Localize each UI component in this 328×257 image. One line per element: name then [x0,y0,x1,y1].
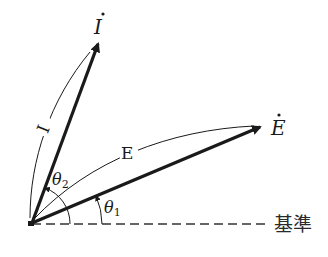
phasor-diagram: I E I E θ2 θ1 基準 [0,0,328,257]
e-vector-arrow [32,127,260,223]
i-vector-label: I [93,15,103,39]
i-vector-dot [101,12,104,15]
theta2-label: θ2 [52,170,69,191]
e-magnitude-arc [34,126,254,219]
e-vector-label: E [270,116,286,140]
e-vector-dot [277,113,280,116]
theta1-angle-arc [96,196,102,224]
theta1-label: θ1 [104,198,121,219]
theta2-angle-arc [45,188,70,224]
reference-label: 基準 [274,213,312,235]
e-magnitude-label: E [121,143,133,163]
